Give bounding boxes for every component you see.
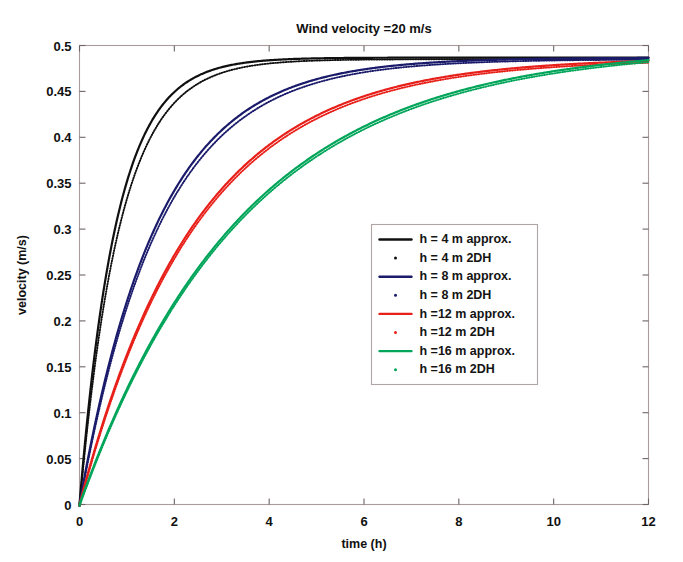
legend-item-label: h = 4 m 2DH xyxy=(420,251,492,265)
chart-legend: h = 4 m approx.h = 4 m 2DHh = 8 m approx… xyxy=(372,225,538,385)
y-tick-label: 0.35 xyxy=(46,176,71,191)
legend-dot-swatch xyxy=(394,331,397,334)
legend-box xyxy=(372,225,538,385)
legend-item-label: h =12 m approx. xyxy=(420,307,516,321)
y-tick-label: 0.25 xyxy=(46,268,71,283)
y-tick-label: 0.15 xyxy=(46,360,71,375)
legend-item-label: h =16 m approx. xyxy=(420,344,516,358)
y-tick-label: 0.1 xyxy=(53,406,71,421)
legend-item-label: h = 8 m 2DH xyxy=(420,288,492,302)
x-tick-label: 2 xyxy=(171,514,178,529)
chart-title: Wind velocity =20 m/s xyxy=(296,21,431,36)
legend-dot-swatch xyxy=(394,257,397,260)
legend-item-label: h =16 m 2DH xyxy=(420,362,495,376)
x-tick-label: 6 xyxy=(360,514,367,529)
x-axis-label: time (h) xyxy=(341,537,386,551)
y-tick-label: 0.2 xyxy=(53,314,71,329)
legend-dot-swatch xyxy=(394,368,397,371)
legend-dot-swatch xyxy=(394,294,397,297)
legend-item-label: h = 4 m approx. xyxy=(420,232,512,246)
y-tick-label: 0.45 xyxy=(46,84,71,99)
x-tick-label: 4 xyxy=(266,514,274,529)
x-tick-label: 10 xyxy=(546,514,560,529)
y-tick-label: 0.05 xyxy=(46,452,71,467)
legend-item-label: h =12 m 2DH xyxy=(420,325,495,339)
legend-item-label: h = 8 m approx. xyxy=(420,269,512,283)
x-tick-label: 8 xyxy=(455,514,462,529)
y-axis-label: velocity (m/s) xyxy=(15,235,29,315)
x-tick-label: 0 xyxy=(76,514,83,529)
y-tick-label: 0 xyxy=(64,498,71,513)
y-tick-label: 0.4 xyxy=(53,130,72,145)
chart-figure: Wind velocity =20 m/s time (h) velocity … xyxy=(0,0,683,562)
x-tick-label: 12 xyxy=(641,514,655,529)
y-tick-label: 0.3 xyxy=(53,222,71,237)
y-tick-label: 0.5 xyxy=(53,39,71,54)
